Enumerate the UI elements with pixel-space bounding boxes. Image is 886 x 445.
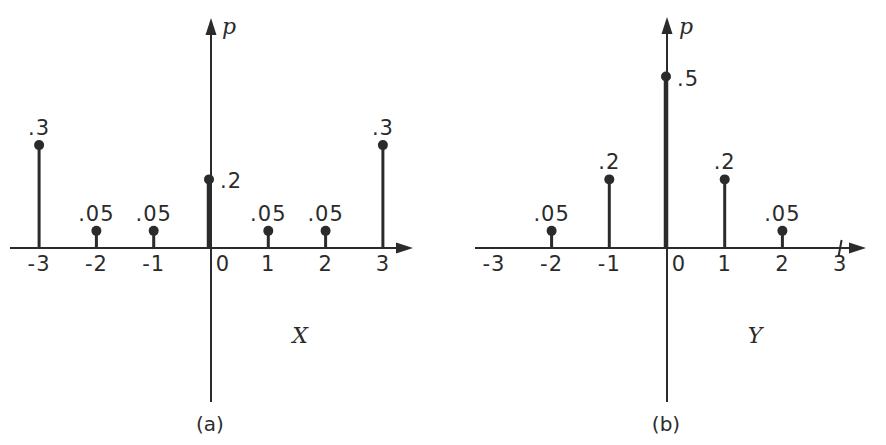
- variable-label: Y: [748, 323, 765, 348]
- x-tick-label: 0: [216, 252, 230, 276]
- stem-value-label: .05: [135, 202, 171, 226]
- x-tick-label: 2: [318, 252, 332, 276]
- panel-caption: (a): [196, 412, 224, 436]
- stem-value-label: .3: [28, 116, 50, 140]
- x-tick-label: -2: [540, 252, 563, 276]
- stem-value-label: .2: [598, 150, 620, 174]
- stem-dot: [661, 72, 671, 82]
- stem: .3: [28, 116, 50, 247]
- stem-value-label: .05: [764, 202, 800, 226]
- stem: .2: [598, 150, 620, 247]
- stem: .5: [661, 67, 699, 248]
- stem: .05: [307, 202, 343, 247]
- stem-value-label: .05: [250, 202, 286, 226]
- stem-dot: [149, 226, 159, 236]
- x-tick-label: -2: [85, 252, 108, 276]
- stem-dot: [720, 174, 730, 184]
- panel-a: pX(a)-3-2-10123.3.05.05.2.05.05.3: [10, 14, 413, 436]
- stem-dot: [34, 140, 44, 150]
- panel-b: pY(b)-3-2-10123.05.2.5.2.05: [475, 14, 866, 436]
- stem: .05: [78, 202, 114, 247]
- stem-value-label: .5: [677, 67, 699, 91]
- x-tick-label: -3: [482, 252, 505, 276]
- x-tick-label: -3: [28, 252, 51, 276]
- figure: pX(a)-3-2-10123.3.05.05.2.05.05.3pY(b)-3…: [0, 0, 886, 445]
- x-tick-label: -1: [142, 252, 165, 276]
- stem-value-label: .2: [220, 169, 242, 193]
- stem: .05: [250, 202, 286, 247]
- stem: .2: [714, 150, 736, 247]
- stem-value-label: .05: [533, 202, 569, 226]
- stem: .05: [135, 202, 171, 247]
- stem: .2: [204, 169, 242, 247]
- stem-value-label: .05: [307, 202, 343, 226]
- stem-dot: [777, 226, 787, 236]
- panel-caption: (b): [652, 412, 680, 436]
- stem-dot: [547, 226, 557, 236]
- stem-dot: [321, 226, 331, 236]
- stem-value-label: .3: [372, 116, 394, 140]
- x-tick-label: 0: [672, 252, 686, 276]
- x-tick-label: 3: [376, 252, 390, 276]
- stem-plots-svg: pX(a)-3-2-10123.3.05.05.2.05.05.3pY(b)-3…: [0, 0, 886, 445]
- p-axis-label: p: [679, 14, 693, 39]
- p-axis-arrowhead-icon: [662, 17, 673, 34]
- stem: .05: [533, 202, 569, 247]
- x-tick-label: -1: [598, 252, 621, 276]
- stem: .3: [372, 116, 394, 247]
- x-tick-label: 3: [833, 252, 847, 276]
- stem-dot: [91, 226, 101, 236]
- stem-dot: [604, 174, 614, 184]
- x-axis-arrowhead-icon: [849, 243, 866, 254]
- stem: .05: [764, 202, 800, 247]
- p-axis-label: p: [222, 14, 236, 39]
- p-axis-arrowhead-icon: [206, 18, 217, 35]
- x-tick-label: 2: [775, 252, 789, 276]
- x-tick-label: 1: [261, 252, 275, 276]
- stem-value-label: .05: [78, 202, 114, 226]
- stem-dot: [204, 174, 214, 184]
- stem-dot: [378, 140, 388, 150]
- stem-dot: [263, 226, 273, 236]
- stem-value-label: .2: [714, 150, 736, 174]
- x-tick-label: 1: [718, 252, 732, 276]
- x-axis-arrowhead-icon: [396, 243, 413, 254]
- variable-label: X: [290, 323, 309, 348]
